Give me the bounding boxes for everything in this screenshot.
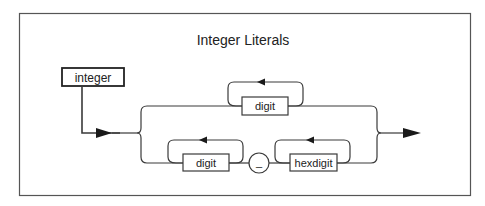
top-digit-label: digit bbox=[255, 100, 275, 112]
exit-arrow-icon bbox=[403, 128, 421, 138]
left-brace-bottom bbox=[137, 133, 183, 163]
entry-arrow-icon bbox=[96, 128, 112, 138]
syntax-diagram: Integer Literals integer digit digit _ h… bbox=[0, 0, 485, 206]
left-brace-top bbox=[137, 106, 242, 133]
diagram-title: Integer Literals bbox=[197, 32, 290, 48]
entry-line bbox=[82, 86, 120, 133]
right-brace-bottom bbox=[337, 133, 381, 163]
top-loop-arrow-icon bbox=[257, 79, 265, 86]
hexdigit-label: hexdigit bbox=[295, 157, 333, 169]
underscore-label: _ bbox=[255, 156, 263, 168]
hexdigit-loop-arrow-icon bbox=[306, 137, 314, 144]
right-brace-top bbox=[288, 106, 381, 133]
bottom-digit-label: digit bbox=[196, 157, 216, 169]
entry-label: integer bbox=[75, 71, 112, 85]
bottom-loop-arrow-icon bbox=[199, 137, 207, 144]
